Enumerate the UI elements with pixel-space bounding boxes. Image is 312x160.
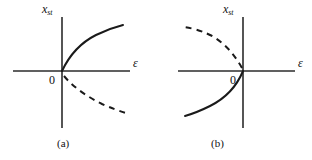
figure-container: xst ε 0 (a) xst ε 0 (b): [0, 0, 312, 160]
panel-a-origin-label: 0: [49, 74, 55, 86]
panel-a-caption: (a): [57, 138, 69, 149]
panel-b-y-axis-label-sub: st: [228, 8, 233, 17]
panel-b-y-axis-label: xst: [223, 3, 233, 17]
panel-a-plot: [0, 0, 156, 160]
panel-a: xst ε 0 (a): [0, 0, 156, 160]
panel-b-origin-label: 0: [230, 74, 236, 86]
panel-a-y-axis-label: xst: [42, 3, 52, 17]
panel-b-x-axis-label: ε: [298, 57, 303, 69]
panel-b-caption: (b): [211, 138, 224, 149]
panel-a-y-axis-label-sub: st: [47, 8, 52, 17]
panel-a-x-axis-label: ε: [133, 57, 138, 69]
panel-b-upper-branch-dashed: [184, 27, 242, 68]
panel-a-upper-branch-solid: [62, 25, 123, 71]
panel-b: xst ε 0 (b): [156, 0, 312, 160]
panel-a-lower-branch-dashed: [64, 76, 126, 113]
